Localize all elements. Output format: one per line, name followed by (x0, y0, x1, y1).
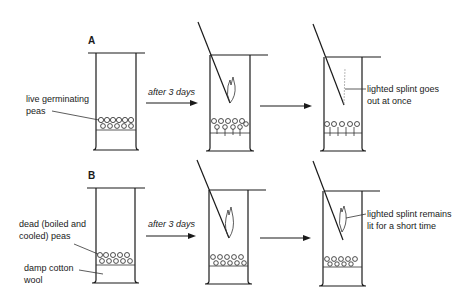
row-b: B dead (boiled and cooled) peas damp cot… (19, 160, 452, 286)
row-b-label: B (88, 170, 95, 181)
leader-line (52, 111, 99, 120)
germinating-peas (98, 117, 133, 128)
result-b-line1: lighted splint remains (367, 209, 452, 219)
result-b-line2: lit for a short time (367, 221, 436, 231)
germination-experiment-diagram: A live germinating peas after 3 days (0, 0, 472, 304)
arrow-right-icon (260, 235, 311, 241)
flame-icon (227, 77, 235, 103)
jar-a-start (88, 53, 145, 150)
arrow-label-b: after 3 days (148, 219, 196, 229)
smoke-trail (344, 68, 345, 104)
dead-peas (325, 257, 358, 267)
cotton-label-line1: damp cotton (24, 263, 74, 273)
cotton-label-line2: wool (23, 275, 43, 285)
result-a-line2: out at once (367, 96, 412, 106)
splint (313, 24, 344, 105)
jar-b-after (197, 160, 266, 284)
splint (197, 160, 229, 238)
flame-icon (225, 207, 233, 238)
flame-icon (339, 206, 346, 232)
arrow-label-a: after 3 days (148, 87, 196, 97)
jar-b-start (87, 188, 145, 283)
arrow-right-icon (146, 233, 196, 239)
live-peas-label-line1: live germinating (26, 94, 89, 104)
jar-a-after (198, 22, 268, 151)
row-a-label: A (88, 35, 95, 46)
row-a: A live germinating peas after 3 days (26, 22, 440, 151)
arrow-right-icon (260, 103, 312, 109)
leader-line (79, 270, 103, 274)
splint (198, 22, 230, 103)
arrow-right-icon (146, 100, 198, 106)
leader-line (74, 244, 98, 254)
dead-peas-label-line1: dead (boiled and (19, 219, 86, 229)
splint (313, 161, 343, 240)
result-a-line1: lighted splint goes (367, 84, 440, 94)
sprouted-peas (325, 122, 360, 137)
live-peas-label-line2: peas (26, 106, 46, 116)
dead-peas-label-line2: cooled) peas (19, 231, 71, 241)
dead-peas (211, 255, 247, 266)
dead-peas (98, 253, 133, 264)
